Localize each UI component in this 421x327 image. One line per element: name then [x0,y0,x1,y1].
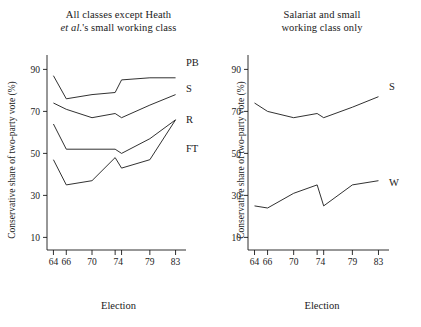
plot-area-right: 1030507090646670747983SW [215,0,421,327]
y-tick-label: 90 [232,65,242,75]
x-tick-label: 66 [62,257,72,267]
x-tick-label: 79 [348,257,358,267]
y-tick-label: 30 [232,191,242,201]
series-label-S: S [389,81,395,92]
series-label-R: R [186,114,193,125]
x-tick-label: 83 [374,257,384,267]
chart-panel-left: All classes except Heath et al.'s small … [0,0,215,327]
y-tick-label: 90 [31,65,41,75]
series-line-FT [53,120,175,185]
y-tick-label: 50 [31,149,41,159]
series-line-PB [53,76,175,99]
y-tick-label: 30 [31,191,41,201]
x-tick-label: 83 [171,257,181,267]
x-tick-label: 64 [49,257,59,267]
y-tick-label: 10 [31,233,41,243]
series-line-W [255,181,379,208]
x-tick-label: 74 [114,257,124,267]
x-tick-label: 79 [145,257,155,267]
chart-panel-right: Salariat and small working class only Co… [215,0,421,327]
x-tick-label: 66 [263,257,273,267]
y-tick-label: 70 [31,107,41,117]
x-tick-label: 64 [250,257,260,267]
y-tick-label: 70 [232,107,242,117]
axis-lines [248,55,389,250]
figure-root: All classes except Heath et al.'s small … [0,0,421,327]
series-label-W: W [389,177,399,188]
series-line-S [255,97,379,118]
x-axis-label-left: Election [0,300,215,311]
y-tick-label: 50 [232,149,242,159]
y-tick-label: 10 [232,233,242,243]
series-label-PB: PB [186,57,199,68]
axis-lines [47,55,186,250]
x-tick-label: 70 [87,257,97,267]
series-label-S: S [186,83,192,94]
x-axis-label-right: Election [215,300,421,311]
x-tick-label: 74 [316,257,326,267]
plot-area-left: 1030507090646670747983PBSRFT [0,0,215,327]
series-label-FT: FT [186,143,199,154]
x-tick-label: 70 [289,257,299,267]
